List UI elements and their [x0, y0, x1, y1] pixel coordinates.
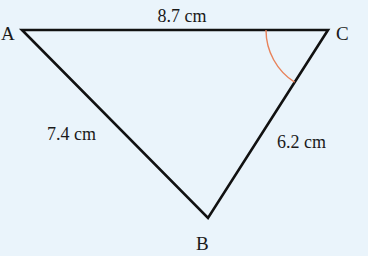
triangle-diagram: A B C 8.7 cm 7.4 cm 6.2 cm [0, 0, 368, 256]
angle-c-arc [266, 30, 295, 82]
vertex-label-c: C [336, 23, 349, 44]
triangle-figure: A B C 8.7 cm 7.4 cm 6.2 cm [0, 0, 368, 256]
vertex-label-b: B [196, 233, 209, 254]
side-label-bc: 6.2 cm [277, 132, 326, 152]
side-label-ab: 7.4 cm [47, 124, 96, 144]
vertex-label-a: A [1, 23, 15, 44]
side-label-ac: 8.7 cm [158, 6, 207, 26]
